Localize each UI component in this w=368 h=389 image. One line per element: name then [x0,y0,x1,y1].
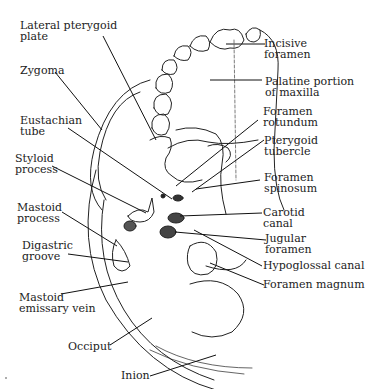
label-line: of maxilla [265,87,354,98]
label-foramen-magnum: Foramen magnum [263,279,365,290]
label-foramen-rotundum: Foramen rotundum [263,106,318,128]
label-line: foramen [264,49,311,60]
label-line: spinosum [264,183,317,194]
label-line: plate [20,31,117,42]
label-mastoid-emissary-vein: Mastoid emissary vein [19,292,96,314]
label-line: canal [263,218,305,229]
label-line: Foramen magnum [263,279,365,290]
label-incisive-foramen: Incisive foramen [264,38,311,60]
label-line: process [17,213,62,224]
label-line: Occiput [68,341,111,352]
label-line: Hypoglossal canal [263,260,364,271]
label-line: tube [20,126,82,137]
label-line: Zygoma [20,65,65,76]
label-pterygoid-tubercle: Pterygoid tubercle [264,135,318,157]
label-jugular-foramen: Jugular foramen [265,233,312,255]
label-lateral-pterygoid-plate: Lateral pterygoid plate [20,20,117,42]
label-line: tubercle [264,146,318,157]
leader-lines [52,36,266,376]
label-styloid-process: Styloid process [15,153,58,175]
label-line: rotundum [263,117,318,128]
label-zygoma: Zygoma [20,65,65,76]
label-line: emissary vein [19,303,96,314]
label-digastric-groove: Digastric groove [22,240,73,262]
skull-base-diagram: Lateral pterygoid plate Zygoma Eustachia… [0,0,368,389]
label-line: foramen [265,244,312,255]
label-inion: Inion [121,370,150,381]
label-occiput: Occiput [68,341,111,352]
label-line: groove [22,251,73,262]
label-foramen-spinosum: Foramen spinosum [264,172,317,194]
label-eustachian-tube: Eustachian tube [20,115,82,137]
label-carotid-canal: Carotid canal [263,207,305,229]
label-mastoid-process: Mastoid process [17,202,62,224]
label-line: Inion [121,370,150,381]
label-line: process [15,164,58,175]
label-hypoglossal-canal: Hypoglossal canal [263,260,364,271]
label-palatine-portion-of-maxilla: Palatine portion of maxilla [265,76,354,98]
